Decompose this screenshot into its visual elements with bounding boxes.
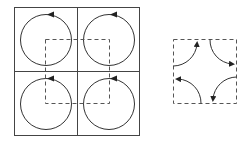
arrowhead-icon: [47, 76, 54, 82]
right-panel: [174, 40, 237, 104]
left-panel: [15, 8, 140, 136]
arc-arrow-bottom-right: [213, 77, 237, 99]
arrowhead-icon: [110, 76, 117, 82]
arc-arrow-top-right: [210, 40, 232, 65]
dashed-boundary: [174, 40, 237, 104]
arc-arrow-bottom-left: [178, 79, 201, 104]
arc-arrow-top-left: [174, 44, 198, 66]
arrowhead-icon: [47, 12, 54, 18]
circulation-diagram: [0, 0, 247, 143]
arrowhead-icon: [110, 12, 117, 18]
